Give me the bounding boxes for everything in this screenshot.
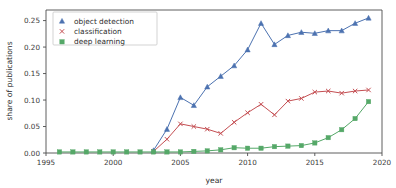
y-tick-label: 0.10 bbox=[24, 96, 40, 105]
data-point bbox=[124, 150, 128, 154]
y-tick-label: 0.15 bbox=[24, 69, 40, 78]
legend-label: deep learning bbox=[74, 37, 125, 46]
legend-label: object detection bbox=[74, 17, 134, 26]
data-point bbox=[151, 150, 155, 154]
data-point bbox=[111, 150, 115, 154]
data-point bbox=[313, 141, 317, 145]
data-point bbox=[178, 150, 182, 154]
data-point bbox=[219, 148, 223, 152]
x-axis-label: year bbox=[206, 176, 224, 185]
x-tick-labels: 199520002005201020152020 bbox=[37, 158, 392, 167]
y-tick-label: 0.20 bbox=[24, 43, 40, 52]
data-point bbox=[299, 143, 303, 147]
data-point bbox=[165, 150, 169, 154]
data-point bbox=[286, 144, 290, 148]
x-tick-label: 2000 bbox=[104, 158, 123, 167]
line-chart: 199520002005201020152020 0.000.050.100.1… bbox=[0, 0, 396, 188]
data-point bbox=[245, 146, 249, 150]
data-point bbox=[353, 116, 357, 120]
chart-legend: object detectionclassificationdeep learn… bbox=[53, 12, 157, 46]
data-point bbox=[205, 149, 209, 153]
x-tick-label: 2015 bbox=[306, 158, 324, 167]
y-tick-label: 0.25 bbox=[24, 16, 40, 25]
y-axis-label: share of publications bbox=[5, 41, 14, 120]
data-point bbox=[339, 127, 343, 131]
data-point bbox=[84, 150, 88, 154]
legend-label: classification bbox=[74, 27, 122, 36]
x-tick-label: 2020 bbox=[373, 158, 392, 167]
y-tick-labels: 0.000.050.100.150.200.25 bbox=[24, 16, 40, 157]
legend-marker-square-icon bbox=[60, 40, 64, 44]
y-tick-label: 0.00 bbox=[24, 149, 40, 158]
data-point bbox=[272, 144, 276, 148]
x-tick-label: 2005 bbox=[171, 158, 189, 167]
data-point bbox=[138, 150, 142, 154]
chart-figure: 199520002005201020152020 0.000.050.100.1… bbox=[0, 0, 396, 188]
data-point bbox=[71, 150, 75, 154]
data-point bbox=[192, 149, 196, 153]
y-tick-label: 0.05 bbox=[24, 122, 40, 131]
data-point bbox=[98, 150, 102, 154]
data-point bbox=[366, 99, 370, 103]
data-point bbox=[326, 135, 330, 139]
x-tick-label: 1995 bbox=[37, 158, 55, 167]
data-point bbox=[232, 146, 236, 150]
x-tick-label: 2010 bbox=[238, 158, 257, 167]
data-point bbox=[259, 146, 263, 150]
data-point bbox=[57, 150, 61, 154]
